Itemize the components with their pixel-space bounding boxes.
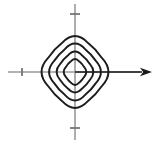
figure-container (0, 0, 158, 144)
level-curve-diagram (0, 0, 158, 144)
